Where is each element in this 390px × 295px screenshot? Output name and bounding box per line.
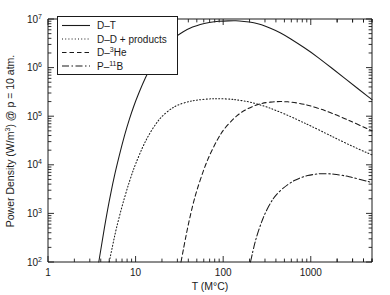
y-tick-label: 102 (27, 256, 42, 268)
curve-series-1 (109, 99, 372, 262)
x-tick-label: 10 (130, 267, 142, 278)
chart-svg: 1101001000102103104105106107 T (M°C) Pow… (0, 0, 390, 295)
y-tick-label: 105 (27, 110, 42, 122)
x-tick-label: 100 (215, 267, 232, 278)
y-tick-label: 107 (27, 13, 42, 25)
y-tick-label: 106 (27, 61, 42, 73)
x-axis-label: T (M°C) (192, 280, 229, 292)
chart-legend: D–TD–D + productsD–3HeP–11B (58, 17, 178, 75)
x-axis-title: T (M°C) (192, 280, 229, 292)
y-tick-label: 103 (27, 207, 42, 219)
x-tick-label: 1000 (300, 267, 323, 278)
y-axis-title: Power Density (W/m3) @ p = 10 atm. (3, 55, 16, 228)
x-tick-label: 1 (45, 267, 51, 278)
y-tick-label: 104 (27, 158, 42, 170)
curve-series-3 (250, 174, 372, 262)
curve-series-2 (181, 102, 372, 262)
legend-label-0: D–T (97, 20, 116, 31)
fusion-power-density-chart: 1101001000102103104105106107 T (M°C) Pow… (0, 0, 390, 295)
y-axis-label: Power Density (W/m3) @ p = 10 atm. (3, 55, 16, 228)
legend-label-1: D–D + products (97, 34, 167, 45)
